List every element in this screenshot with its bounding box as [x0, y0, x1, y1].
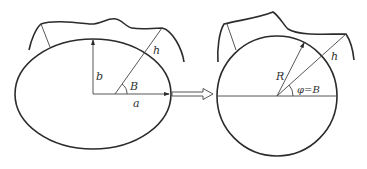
label-a: a [133, 97, 140, 110]
label-R: R [275, 70, 284, 83]
label-phi-equals-B: φ=B [297, 84, 320, 95]
hollow-arrow-shape [172, 89, 213, 100]
phi-angle-arc [289, 85, 293, 96]
left-surface-normal-line [41, 24, 50, 47]
label-b: b [96, 70, 103, 83]
label-h-left: h [153, 44, 160, 57]
ellipsoid-to-sphere-diagram: b B a h R φ=B h [0, 0, 367, 169]
right-surface-normal-line [227, 24, 236, 50]
label-h-right: h [331, 50, 338, 63]
transform-arrow [172, 89, 213, 100]
right-figure-circle-group: R φ=B h [217, 12, 354, 156]
latitude-angle-arc [122, 84, 127, 94]
left-figure-ellipse-group: b B a h [15, 19, 184, 149]
label-B: B [129, 80, 138, 93]
